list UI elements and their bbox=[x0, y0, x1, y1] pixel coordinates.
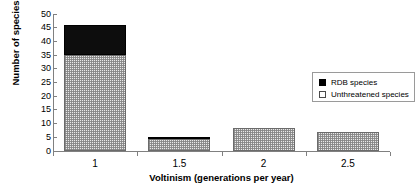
y-axis-tick: 35 bbox=[21, 50, 57, 61]
y-axis-tick: 0 bbox=[21, 146, 57, 157]
y-axis-tick-label: 40 bbox=[41, 36, 51, 47]
y-axis-tick: 15 bbox=[21, 104, 57, 115]
chart-figure: Number of species 05101520253035404550 1… bbox=[0, 0, 415, 195]
y-axis-tick-mark bbox=[53, 41, 57, 42]
y-axis-tick-label: 25 bbox=[41, 77, 51, 88]
bar-segment-unthreatened-species bbox=[148, 139, 210, 151]
bar-stack bbox=[64, 25, 126, 151]
y-axis-tick-mark bbox=[53, 55, 57, 56]
y-axis-tick-label: 50 bbox=[41, 9, 51, 20]
x-axis-tick-label: 2.5 bbox=[318, 158, 378, 170]
bar-segment-rdb-species bbox=[148, 137, 210, 139]
y-axis-tick: 50 bbox=[21, 9, 57, 20]
bar-segment-unthreatened-species bbox=[317, 132, 379, 151]
y-axis-tick: 45 bbox=[21, 22, 57, 33]
y-axis-tick: 10 bbox=[21, 118, 57, 129]
bar-segment-unthreatened-species bbox=[233, 128, 295, 151]
y-axis-tick-mark bbox=[53, 27, 57, 28]
x-axis-tick-mark bbox=[222, 152, 223, 156]
y-axis-tick-label: 15 bbox=[41, 104, 51, 115]
chart-legend: RDB species Unthreatened species bbox=[312, 72, 415, 102]
x-axis-tick-mark bbox=[53, 152, 54, 156]
legend-label-unthreatened-species: Unthreatened species bbox=[331, 89, 409, 100]
x-axis-tick-mark bbox=[306, 152, 307, 156]
y-axis-tick-mark bbox=[53, 137, 57, 138]
x-axis-tick-label: 2 bbox=[234, 158, 294, 170]
y-axis-tick-label: 20 bbox=[41, 91, 51, 102]
y-axis-tick-mark bbox=[53, 123, 57, 124]
y-axis-tick-label: 10 bbox=[41, 118, 51, 129]
y-axis-tick-mark bbox=[53, 14, 57, 15]
y-axis-tick-mark bbox=[53, 109, 57, 110]
bar-stack bbox=[233, 128, 295, 151]
x-axis-tick-mark bbox=[390, 152, 391, 156]
plot-area: 05101520253035404550 11.522.5 RDB specie… bbox=[53, 14, 390, 152]
y-axis-tick-mark bbox=[53, 82, 57, 83]
legend-swatch-unthreatened-species bbox=[319, 91, 326, 98]
bar-stack bbox=[317, 132, 379, 151]
legend-swatch-rdb-species bbox=[319, 79, 326, 86]
y-axis-tick: 5 bbox=[21, 132, 57, 143]
y-axis-tick-label: 45 bbox=[41, 22, 51, 33]
x-axis-tick-mark bbox=[137, 152, 138, 156]
x-axis-title: Voltinism (generations per year) bbox=[53, 172, 390, 183]
legend-label-rdb-species: RDB species bbox=[331, 77, 377, 88]
y-axis-tick-mark bbox=[53, 96, 57, 97]
legend-item-unthreatened-species: Unthreatened species bbox=[319, 89, 414, 100]
y-axis-tick: 30 bbox=[21, 63, 57, 74]
y-axis-tick-label: 30 bbox=[41, 63, 51, 74]
y-axis-tick: 40 bbox=[21, 36, 57, 47]
bar-segment-unthreatened-species bbox=[64, 55, 126, 151]
x-axis-tick-label: 1.5 bbox=[149, 158, 209, 170]
x-axis-tick-label: 1 bbox=[65, 158, 125, 170]
bar-segment-rdb-species bbox=[64, 25, 126, 55]
y-axis-tick-label: 35 bbox=[41, 50, 51, 61]
bar-stack bbox=[148, 137, 210, 151]
legend-item-rdb-species: RDB species bbox=[319, 77, 414, 88]
y-axis-tick: 20 bbox=[21, 91, 57, 102]
y-axis-tick: 25 bbox=[21, 77, 57, 88]
y-axis-tick-label: 5 bbox=[46, 132, 51, 143]
y-axis-tick-label: 0 bbox=[46, 146, 51, 157]
y-axis-tick-mark bbox=[53, 68, 57, 69]
